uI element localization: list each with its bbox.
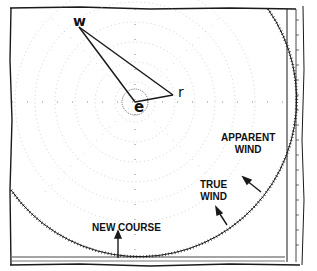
point-r-label: r <box>178 85 184 99</box>
true-wind-label: TRUE WIND <box>200 180 227 202</box>
polar-grid <box>12 0 285 257</box>
apparent-wind-line1: APPARENT <box>221 133 275 143</box>
new-course-label: NEW COURSE <box>92 223 161 233</box>
ruler-scale <box>296 20 299 245</box>
apparent-wind-label: APPARENT WIND <box>221 133 275 155</box>
direction-arrows <box>115 177 261 258</box>
vector-triangle <box>79 27 173 102</box>
true-wind-line1: TRUE <box>200 180 227 190</box>
apparent-wind-line2: WIND <box>221 145 275 155</box>
true-wind-line2: WIND <box>200 192 227 202</box>
point-w-label: w <box>73 14 86 28</box>
point-e-label: e <box>134 100 144 115</box>
